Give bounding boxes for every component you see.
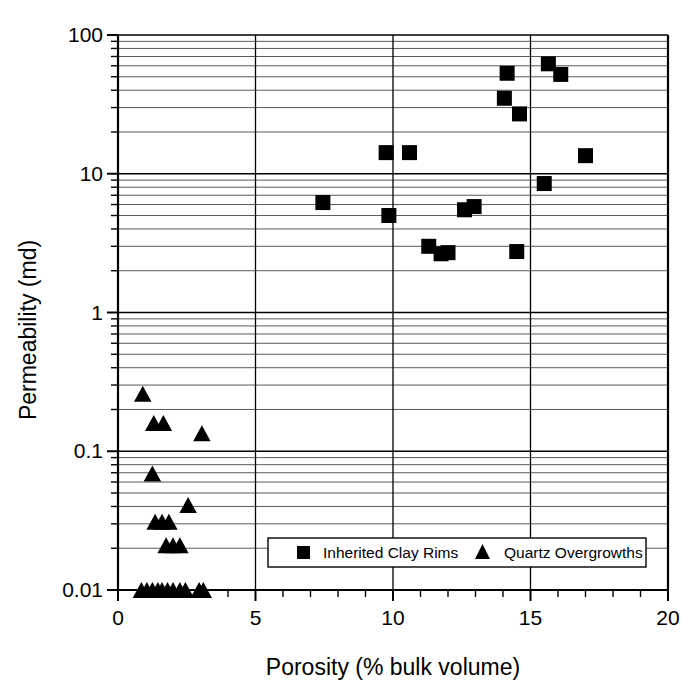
legend-square-marker-icon — [297, 546, 310, 559]
y-tick-label: 100 — [68, 23, 103, 46]
data-point-square — [497, 91, 512, 106]
scatter-plot-figure: 0.010.1110100 05101520 Porosity (% bulk … — [0, 0, 690, 686]
y-tick-label: 0.1 — [74, 439, 103, 462]
chart-legend: Inherited Clay Rims Quartz Overgrowths — [268, 538, 646, 567]
data-point-square — [509, 244, 524, 259]
y-axis-title: Permeability (md) — [15, 240, 41, 420]
legend-label-quartz-overgrowths: Quartz Overgrowths — [504, 544, 643, 561]
x-tick-label: 0 — [112, 606, 124, 629]
permeability-porosity-scatter-chart: 0.010.1110100 05101520 Porosity (% bulk … — [0, 0, 690, 686]
y-tick-label: 10 — [80, 162, 103, 185]
legend-label-inherited-clay-rims: Inherited Clay Rims — [323, 544, 458, 561]
x-axis-tick-labels: 05101520 — [112, 606, 680, 629]
data-point-square — [537, 176, 552, 191]
data-point-square — [379, 145, 394, 160]
data-point-square — [578, 148, 593, 163]
x-tick-label: 10 — [381, 606, 404, 629]
data-point-square — [381, 208, 396, 223]
data-point-square — [553, 67, 568, 82]
y-tick-label: 1 — [91, 301, 103, 324]
data-point-square — [441, 245, 456, 260]
data-point-square — [500, 66, 515, 81]
x-tick-label: 5 — [250, 606, 262, 629]
data-point-square — [402, 145, 417, 160]
x-tick-label: 20 — [656, 606, 679, 629]
x-tick-label: 15 — [519, 606, 542, 629]
data-point-square — [512, 106, 527, 121]
data-point-square — [315, 195, 330, 210]
x-axis-title: Porosity (% bulk volume) — [266, 654, 520, 680]
data-point-square — [467, 199, 482, 214]
y-tick-label: 0.01 — [62, 578, 103, 601]
y-axis-tick-labels: 0.010.1110100 — [62, 23, 103, 601]
